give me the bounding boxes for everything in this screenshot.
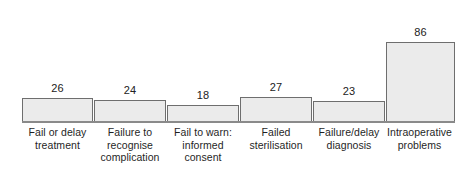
bar-group-5[interactable]: 86 xyxy=(386,26,455,122)
category-label-2: Fail to warn: informed consent xyxy=(167,126,239,164)
category-label-3: Failed sterilisation xyxy=(240,126,312,151)
category-label-line: problems xyxy=(384,139,455,152)
category-label-0: Fail or delay treatment xyxy=(22,126,93,151)
bar-group-4[interactable]: 23 xyxy=(313,85,385,122)
bar-value-label: 86 xyxy=(414,26,426,39)
category-label-line: consent xyxy=(167,151,239,164)
category-labels: Fail or delay treatment Failure to recog… xyxy=(22,126,455,182)
bar-rect[interactable] xyxy=(22,98,93,122)
bar-group-1[interactable]: 24 xyxy=(94,84,166,122)
category-label-line: recognise xyxy=(94,139,166,152)
category-label-line: Intraoperative xyxy=(384,126,455,139)
bar-rect[interactable] xyxy=(167,105,239,122)
category-label-4: Failure/delay diagnosis xyxy=(313,126,385,151)
bar-group-3[interactable]: 27 xyxy=(240,81,312,122)
bar-value-label: 18 xyxy=(197,89,209,102)
category-label-5: Intraoperative problems xyxy=(384,126,455,151)
bar-group-2[interactable]: 18 xyxy=(167,89,239,122)
bar-value-label: 23 xyxy=(343,85,355,98)
axis-baseline xyxy=(22,121,455,123)
category-label-line: Failure to xyxy=(94,126,166,139)
category-label-line: treatment xyxy=(22,139,93,152)
category-label-line: complication xyxy=(94,151,166,164)
category-label-line: Fail or delay xyxy=(22,126,93,139)
bar-group-0[interactable]: 26 xyxy=(22,82,93,122)
bar-rect[interactable] xyxy=(313,101,385,122)
category-label-line: Failed xyxy=(240,126,312,139)
bar-rect[interactable] xyxy=(94,100,166,122)
bar-value-label: 27 xyxy=(270,81,282,94)
category-label-line: sterilisation xyxy=(240,139,312,152)
category-label-line: informed xyxy=(167,139,239,152)
plot-area: 26 24 18 27 23 86 xyxy=(22,8,455,122)
bar-value-label: 26 xyxy=(51,82,63,95)
category-label-line: Failure/delay xyxy=(313,126,385,139)
bar-value-label: 24 xyxy=(124,84,136,97)
category-label-line: Fail to warn: xyxy=(167,126,239,139)
bar-chart: 26 24 18 27 23 86 Fail or delay treatm xyxy=(0,0,474,184)
bar-rect[interactable] xyxy=(386,42,455,122)
category-label-1: Failure to recognise complication xyxy=(94,126,166,164)
bar-rect[interactable] xyxy=(240,97,312,122)
category-label-line: diagnosis xyxy=(313,139,385,152)
